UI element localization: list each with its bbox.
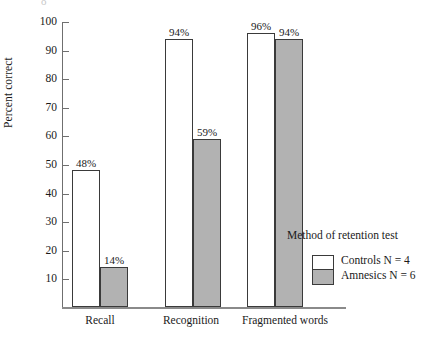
bar-label-recall-amnesics: 14%: [104, 254, 124, 267]
y-tick-label-70: 70: [46, 100, 63, 115]
legend-label-amnesics: Amnesics N = 6: [341, 268, 416, 283]
bar-group-recognition: 94% 59%: [165, 22, 221, 307]
legend-swatch-stack: [312, 255, 334, 285]
bar-label-recognition-controls: 94%: [169, 26, 189, 39]
x-label-recognition: Recognition: [160, 313, 222, 328]
bar-recall-controls[interactable]: 48%: [72, 170, 100, 307]
y-tick-label-40: 40: [46, 186, 63, 201]
bar-label-fragmented-controls: 96%: [251, 20, 271, 33]
legend-label-controls: Controls N = 4: [341, 253, 416, 268]
y-axis-title: Percent correct: [2, 57, 14, 128]
y-tick-label-50: 50: [46, 157, 63, 172]
y-tick-label-90: 90: [46, 43, 63, 58]
y-tick-label-60: 60: [46, 128, 63, 143]
y-tick-label-20: 20: [46, 243, 63, 258]
y-tick-label-80: 80: [46, 71, 63, 86]
legend: Method of retention test Controls N = 4 …: [287, 228, 437, 285]
bar-recognition-controls[interactable]: 94%: [165, 39, 193, 307]
bar-group-recall: 48% 14%: [72, 22, 128, 307]
legend-body: Controls N = 4 Amnesics N = 6: [312, 255, 437, 285]
legend-swatch-controls: [313, 256, 333, 270]
x-label-recall: Recall: [72, 313, 128, 328]
y-tick-label-30: 30: [46, 214, 63, 229]
bar-chart-figure: o Percent correct 100 90 80 70 60 50 40 …: [0, 0, 437, 351]
bar-label-recall-controls: 48%: [76, 157, 96, 170]
y-tick-label-10: 10: [46, 271, 63, 286]
bar-recognition-amnesics[interactable]: 59%: [193, 139, 221, 307]
legend-title: Method of retention test: [287, 228, 437, 243]
x-axis-line: [62, 307, 346, 309]
legend-swatch-amnesics: [313, 270, 333, 284]
legend-labels: Controls N = 4 Amnesics N = 6: [341, 253, 416, 283]
bar-fragmented-controls[interactable]: 96%: [247, 33, 275, 307]
y-tick-label-100: 100: [40, 14, 62, 29]
bar-recall-amnesics[interactable]: 14%: [100, 267, 128, 307]
x-label-fragmented-words: Fragmented words: [232, 313, 338, 328]
clipped-top-glyph: o: [41, 0, 47, 7]
bar-label-recognition-amnesics: 59%: [197, 126, 217, 139]
bar-label-fragmented-amnesics: 94%: [279, 26, 299, 39]
